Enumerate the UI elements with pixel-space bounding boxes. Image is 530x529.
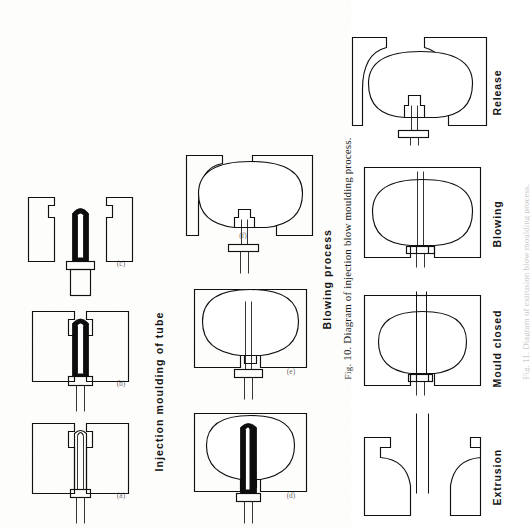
stage-label-mould-closed: Mould closed (490, 309, 502, 387)
figure-caption-prefix: Fig. (342, 363, 352, 379)
panel-c-drawing (24, 193, 136, 297)
stage-label-blowing: Blowing (490, 200, 502, 247)
panel-d-drawing (190, 407, 310, 523)
figure-extrusion-blow-moulding: Extrusion Mould closed (360, 0, 520, 529)
figure-top-caption: Fig. 10. Diagram of injection blow mould… (340, 137, 352, 379)
figure-injection-blow-moulding: (a) (b) (0, 0, 176, 529)
panel-e: (e) (190, 283, 310, 399)
panel-f-label: (f) (239, 231, 247, 240)
stage-blowing-drawing (360, 155, 484, 267)
stage-extrusion-drawing (360, 409, 484, 521)
panel-a-drawing (24, 419, 136, 523)
figure-caption-body: Diagram of injection blow moulding proce… (340, 137, 352, 343)
panel-f-drawing (186, 149, 314, 273)
stage-blowing: Blowing (360, 155, 484, 267)
panel-a-label: (a) (116, 490, 124, 499)
row-caption-injection-moulding: Injection moulding of tube (152, 311, 164, 471)
panel-b-label: (b) (116, 378, 125, 387)
stage-mould-closed-drawing (360, 283, 484, 395)
figure-bottom-caption-faint: Fig. 11. Diagram of extrusion blow mould… (520, 184, 530, 379)
panel-a: (a) (24, 419, 136, 523)
panel-c-label: (c) (116, 258, 124, 267)
stage-extrusion: Extrusion (360, 409, 484, 521)
panel-c: (c) (24, 193, 136, 297)
panel-f: (f) (186, 149, 314, 273)
stage-label-extrusion: Extrusion (490, 448, 502, 505)
panel-e-label: (e) (286, 366, 294, 375)
panel-d: (d) (190, 407, 310, 523)
row-caption-blowing-process: Blowing process (320, 228, 332, 329)
stage-release: Release (352, 21, 488, 145)
stage-label-release: Release (490, 69, 502, 115)
stage-mould-closed: Mould closed (360, 283, 484, 395)
panel-b: (b) (24, 307, 136, 411)
figure-caption-number: 10. (340, 346, 352, 360)
panel-b-drawing (24, 307, 136, 411)
panel-e-drawing (190, 283, 310, 399)
panel-d-label: (d) (286, 490, 295, 499)
stage-release-drawing (352, 21, 488, 145)
